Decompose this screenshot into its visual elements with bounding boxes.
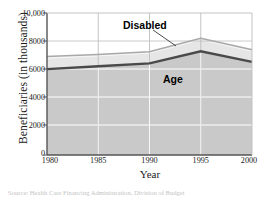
x-tick-1995: 1995 (181, 156, 221, 165)
annotation-disabled: Disabled (123, 19, 167, 31)
x-tick-1985: 1985 (78, 156, 118, 165)
x-axis-title: Year (47, 168, 253, 180)
x-tick-2000: 2000 (229, 156, 263, 165)
x-tick-1990: 1990 (130, 156, 170, 165)
chart-figure: Beneficiaries (in thousands) 10,000 8000… (0, 0, 263, 198)
annotation-age: Age (163, 73, 183, 85)
source-caption: Source: Health Care Financing Administra… (8, 188, 258, 196)
x-tick-1980: 1980 (30, 156, 70, 165)
